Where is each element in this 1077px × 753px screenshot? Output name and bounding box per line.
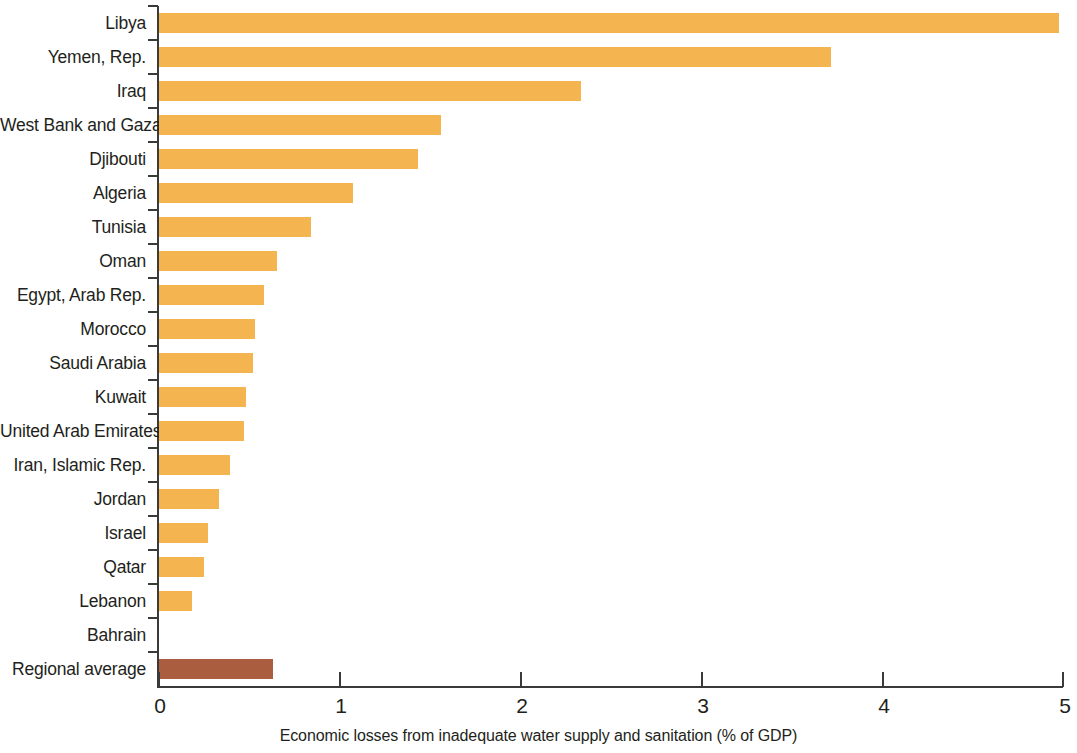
table-row: Oman xyxy=(0,244,1077,278)
y-axis-tick xyxy=(148,549,158,551)
bar xyxy=(159,353,253,373)
bar xyxy=(159,455,230,475)
bar xyxy=(159,183,353,203)
bar xyxy=(159,387,246,407)
table-row: Jordan xyxy=(0,482,1077,516)
table-row: Kuwait xyxy=(0,380,1077,414)
table-row: Yemen, Rep. xyxy=(0,40,1077,74)
x-axis-tick xyxy=(520,672,522,687)
x-axis-title: Economic losses from inadequate water su… xyxy=(0,727,1077,745)
bar xyxy=(159,523,208,543)
table-row: West Bank and Gaza xyxy=(0,108,1077,142)
y-axis-tick xyxy=(148,413,158,415)
bar xyxy=(159,489,219,509)
x-axis-tick xyxy=(882,672,884,687)
y-axis-tick xyxy=(148,617,158,619)
y-axis-tick-label: Oman xyxy=(0,244,146,278)
table-row: Djibouti xyxy=(0,142,1077,176)
bar xyxy=(159,591,192,611)
x-axis-tick xyxy=(339,672,341,687)
y-axis-tick xyxy=(148,583,158,585)
x-axis-tick xyxy=(701,672,703,687)
y-axis-tick-label: Algeria xyxy=(0,176,146,210)
y-axis-tick-label: Libya xyxy=(0,6,146,40)
y-axis-tick xyxy=(148,5,158,7)
y-axis-tick-label: Yemen, Rep. xyxy=(0,40,146,74)
table-row: Israel xyxy=(0,516,1077,550)
y-axis-tick xyxy=(148,345,158,347)
bar-chart: LibyaYemen, Rep.IraqWest Bank and GazaDj… xyxy=(0,0,1077,753)
y-axis-tick xyxy=(148,447,158,449)
y-axis-tick-label: Kuwait xyxy=(0,380,146,414)
table-row: Qatar xyxy=(0,550,1077,584)
y-axis-tick-label: Djibouti xyxy=(0,142,146,176)
y-axis-tick xyxy=(148,39,158,41)
bar xyxy=(159,659,273,679)
y-axis-tick-label: Jordan xyxy=(0,482,146,516)
table-row: Egypt, Arab Rep. xyxy=(0,278,1077,312)
y-axis-tick xyxy=(148,515,158,517)
y-axis-tick xyxy=(148,107,158,109)
y-axis-tick-label: Iran, Islamic Rep. xyxy=(0,448,146,482)
bar xyxy=(159,115,441,135)
y-axis-tick xyxy=(148,379,158,381)
bar xyxy=(159,421,244,441)
y-axis-tick-label: Lebanon xyxy=(0,584,146,618)
bar xyxy=(159,47,831,67)
bar xyxy=(159,557,204,577)
x-axis-tick-label: 0 xyxy=(140,694,180,718)
y-axis-tick xyxy=(148,73,158,75)
table-row: United Arab Emirates xyxy=(0,414,1077,448)
table-row: Iran, Islamic Rep. xyxy=(0,448,1077,482)
y-axis-tick-label: Bahrain xyxy=(0,618,146,652)
y-axis-tick xyxy=(148,651,158,653)
y-axis-tick-label: Egypt, Arab Rep. xyxy=(0,278,146,312)
y-axis-tick-label: Morocco xyxy=(0,312,146,346)
x-axis-tick-label: 2 xyxy=(502,694,542,718)
y-axis-tick xyxy=(148,481,158,483)
y-axis-tick xyxy=(148,277,158,279)
x-axis-tick-label: 1 xyxy=(321,694,361,718)
bar xyxy=(159,13,1059,33)
y-axis-tick-label: Tunisia xyxy=(0,210,146,244)
y-axis-tick-label: Qatar xyxy=(0,550,146,584)
y-axis-tick-label: United Arab Emirates xyxy=(0,414,146,448)
table-row: Algeria xyxy=(0,176,1077,210)
y-axis-tick-label: Saudi Arabia xyxy=(0,346,146,380)
y-axis-tick-label: Iraq xyxy=(0,74,146,108)
table-row: Bahrain xyxy=(0,618,1077,652)
y-axis-tick xyxy=(148,243,158,245)
x-axis-tick-label: 5 xyxy=(1045,694,1077,718)
bar xyxy=(159,217,311,237)
y-axis-tick-label: Regional average xyxy=(0,652,146,686)
y-axis-tick xyxy=(148,175,158,177)
bar xyxy=(159,81,581,101)
bar xyxy=(159,251,277,271)
x-axis-line xyxy=(158,686,1063,688)
y-axis-tick-label: West Bank and Gaza xyxy=(0,108,146,142)
x-axis-tick-label: 3 xyxy=(683,694,723,718)
bar xyxy=(159,285,264,305)
x-axis-tick xyxy=(158,672,160,687)
bar xyxy=(159,319,255,339)
y-axis-tick xyxy=(148,141,158,143)
bar xyxy=(159,149,418,169)
x-axis-tick-label: 4 xyxy=(864,694,904,718)
y-axis-tick xyxy=(148,209,158,211)
y-axis-tick-label: Israel xyxy=(0,516,146,550)
table-row: Tunisia xyxy=(0,210,1077,244)
table-row: Iraq xyxy=(0,74,1077,108)
table-row: Saudi Arabia xyxy=(0,346,1077,380)
y-axis-tick xyxy=(148,311,158,313)
table-row: Libya xyxy=(0,6,1077,40)
table-row: Lebanon xyxy=(0,584,1077,618)
table-row: Regional average xyxy=(0,652,1077,686)
table-row: Morocco xyxy=(0,312,1077,346)
